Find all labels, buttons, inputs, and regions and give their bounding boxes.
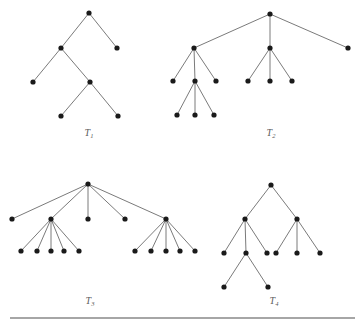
tree-node: [289, 78, 294, 83]
tree-edge: [37, 219, 51, 251]
tree-node: [317, 250, 322, 255]
tree-edge: [21, 219, 51, 251]
tree-edges: [173, 14, 348, 115]
tree-edge: [51, 184, 88, 219]
tree-node: [61, 248, 66, 253]
tree-label-subscript: 2: [272, 132, 276, 139]
tree-edge: [166, 219, 180, 251]
tree-node: [87, 79, 92, 84]
tree-node: [34, 248, 39, 253]
tree-node: [30, 79, 35, 84]
tree-node: [58, 113, 63, 118]
tree-edge: [173, 48, 194, 81]
tree-edge: [270, 48, 292, 81]
tree-edges: [224, 185, 320, 287]
tree-edge: [271, 185, 297, 219]
tree-node: [221, 250, 226, 255]
tree-edge: [61, 48, 90, 82]
tree-node: [132, 248, 137, 253]
tree-edge: [194, 14, 270, 48]
tree-node: [268, 182, 273, 187]
tree-node: [192, 248, 197, 253]
tree-node: [86, 10, 91, 15]
tree-edge: [246, 253, 268, 287]
tree-figure: T1T2T3T4: [0, 0, 361, 324]
tree-node: [245, 78, 250, 83]
tree-edge: [224, 253, 246, 287]
tree-node: [58, 45, 63, 50]
tree-edges: [33, 13, 118, 116]
tree-edge: [12, 184, 88, 219]
tree-label-subscript: 3: [90, 300, 95, 307]
tree-node: [191, 45, 196, 50]
tree-node: [242, 216, 247, 221]
tree-nodes: [9, 181, 197, 253]
tree-node: [174, 112, 179, 117]
tree-label-subscript: 1: [90, 132, 93, 139]
tree-diagram-canvas: T1T2T3T4: [0, 0, 361, 324]
tree-labels-group: T1T2T3T4: [85, 127, 280, 307]
tree-node: [267, 78, 272, 83]
tree-node: [114, 45, 119, 50]
tree-node: [148, 248, 153, 253]
tree-node: [177, 248, 182, 253]
tree-t1: [30, 10, 120, 118]
tree-edge: [151, 219, 166, 251]
tree-node: [267, 45, 272, 50]
tree-label-t1: T1: [85, 127, 94, 139]
tree-t2: [170, 11, 350, 117]
tree-edge: [33, 48, 61, 82]
tree-edge: [61, 82, 90, 116]
tree-edge: [224, 219, 245, 253]
tree-node: [221, 284, 226, 289]
tree-edge: [270, 14, 348, 48]
tree-node: [85, 216, 90, 221]
tree-edge: [194, 48, 195, 81]
tree-edge: [61, 13, 89, 48]
tree-node: [163, 216, 168, 221]
tree-node: [18, 248, 23, 253]
tree-node: [264, 250, 269, 255]
tree-node: [294, 216, 299, 221]
tree-node: [192, 78, 197, 83]
tree-node: [48, 216, 53, 221]
tree-edge: [245, 219, 246, 253]
tree-node: [243, 250, 248, 255]
tree-edge: [276, 219, 297, 253]
tree-node: [122, 216, 127, 221]
tree-node: [170, 78, 175, 83]
tree-nodes: [221, 182, 322, 289]
tree-label-t3: T3: [86, 295, 96, 307]
tree-node: [115, 113, 120, 118]
tree-node: [345, 45, 350, 50]
tree-edge: [90, 82, 118, 116]
tree-edge: [135, 219, 166, 251]
tree-label-t2: T2: [267, 127, 277, 139]
tree-edge: [88, 184, 125, 219]
tree-edge: [195, 81, 214, 115]
tree-node: [9, 216, 14, 221]
tree-edge: [248, 48, 270, 81]
tree-edge: [177, 81, 195, 115]
tree-node: [267, 11, 272, 16]
tree-edge: [89, 13, 117, 48]
tree-node: [294, 250, 299, 255]
tree-edge: [245, 185, 271, 219]
trees-group: [9, 10, 350, 289]
tree-edge: [245, 219, 267, 253]
tree-node: [213, 78, 218, 83]
tree-edge: [166, 219, 195, 251]
tree-label-t4: T4: [270, 295, 280, 307]
tree-node: [163, 248, 168, 253]
tree-t3: [9, 181, 197, 253]
tree-node: [192, 112, 197, 117]
tree-node: [76, 248, 81, 253]
tree-label-subscript: 4: [275, 300, 279, 307]
tree-edge: [51, 219, 64, 251]
tree-nodes: [170, 11, 350, 117]
tree-edge: [297, 219, 320, 253]
tree-node: [273, 250, 278, 255]
tree-edge: [194, 48, 216, 81]
tree-node: [85, 181, 90, 186]
tree-node: [211, 112, 216, 117]
